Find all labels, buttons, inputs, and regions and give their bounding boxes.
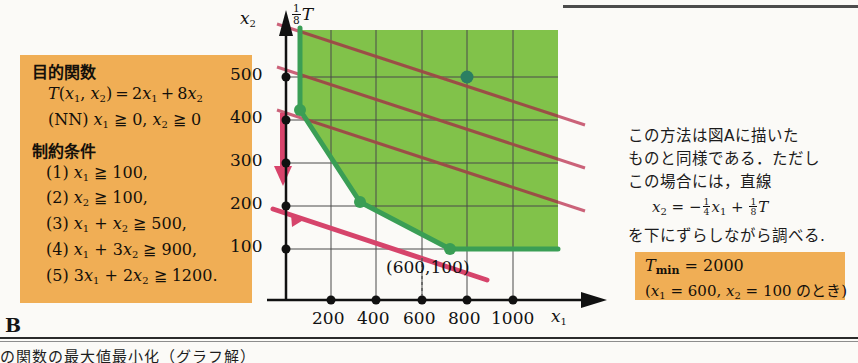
y-tick-500: 500 [230,64,262,84]
shift-arrow [274,113,292,186]
constraints-heading: 制約条件 [32,142,242,162]
constraint-4: (4) x1 + 3x2 ≧ 900, [32,239,242,265]
figure-label: B [5,314,21,336]
sample-point-marker [461,71,474,84]
objective-formula: T(x1, x2) = 2x1 + 8x2 [32,83,242,109]
page-bottom-caption: の関数の最大値最小化（グラフ解） [0,345,420,363]
objective-function-box: 目的関数 T(x1, x2) = 2x1 + 8x2 (NN) x1 ≧ 0, … [20,55,252,303]
note-line-2: ものと同様である．ただし [628,148,856,171]
chart-svg [255,0,645,340]
y-tick-100: 100 [230,236,262,256]
constraint-2: (2) x2 ≧ 100, [32,187,242,213]
page-bottom-rule [0,337,858,339]
x-tick-200: 200 [312,308,344,328]
objective-heading: 目的関数 [32,63,242,83]
figure-page: 目的関数 T(x1, x2) = 2x1 + 8x2 (NN) x1 ≧ 0, … [0,0,858,363]
x-axis-label: x1 [551,306,567,327]
note-equation: x2 = −14x1 + 18T [628,194,856,225]
y-tick-300: 300 [230,150,262,170]
x-tick-400: 400 [357,308,389,328]
note-line-1: この方法は図Aに描いた [628,125,856,148]
feasible-region [300,30,558,249]
x-tick-800: 800 [448,308,480,328]
x-tick-600: 600 [403,308,435,328]
note-line-3: この場合には，直線 [628,171,856,194]
explanatory-note: この方法は図Aに描いた ものと同様である．ただし この場合には，直線 x2 = … [628,125,856,248]
note-line-4: を下にずらしながら調べる. [628,225,856,248]
x-axis-arrow [581,292,607,308]
tmin-detail: (x1 = 600, x2 = 100 のとき) [645,281,839,306]
y-axis-top-annotation: 18T [291,3,313,26]
y-axis-label: x2 [240,8,256,29]
y-tick-200: 200 [230,193,262,213]
y-tick-400: 400 [230,107,262,127]
constraint-5: (5) 3x1 + 2x2 ≧ 1200. [32,265,242,291]
page-bottom-rule-thin [0,341,858,342]
constraint-1: (1) x1 ≧ 100, [32,162,242,188]
x-tick-1000: 1000 [491,308,534,328]
result-box: Tmin = 2000 (x1 = 600, x2 = 100 のとき) [635,252,845,300]
tmin-value: Tmin = 2000 [645,255,839,281]
linear-programming-chart: x2 18T x1 500 400 300 200 100 200 400 60… [255,0,645,340]
optimum-point-label: (600,100) [386,257,470,277]
nonnegativity-condition: (NN) x1 ≧ 0, x2 ≧ 0 [32,109,242,135]
constraint-3: (3) x1 + x2 ≧ 500, [32,213,242,239]
